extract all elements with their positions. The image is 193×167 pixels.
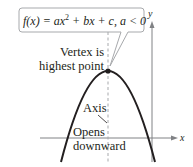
opens-label-line2: downward bbox=[73, 139, 127, 153]
vertex-label-line1: Vertex is bbox=[60, 45, 104, 59]
equation-text: f(x) = ax2 + bx + c, a < 0 bbox=[23, 13, 146, 28]
y-axis-arrow-icon bbox=[150, 21, 155, 28]
axis-label: Axis bbox=[83, 101, 107, 115]
x-axis-label: x bbox=[179, 132, 185, 143]
y-axis bbox=[150, 21, 155, 162]
vertex-point bbox=[105, 68, 110, 73]
parabola-diagram: x y f(x) = ax2 + bx + c, a < 0 Vertex is… bbox=[0, 0, 193, 167]
y-axis-label: y bbox=[147, 8, 153, 19]
opens-label-line1: Opens bbox=[73, 125, 105, 139]
x-axis-arrow-icon bbox=[171, 136, 178, 141]
vertex-label-line2: highest point bbox=[39, 59, 104, 73]
axis-label-pointer bbox=[98, 115, 107, 123]
